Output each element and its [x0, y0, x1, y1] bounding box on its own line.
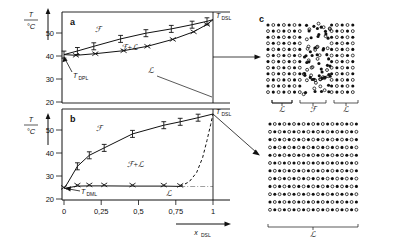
lattice-dot	[288, 54, 291, 57]
lattice-dot	[341, 54, 344, 57]
lattice-dot	[278, 208, 281, 211]
lattice-dot	[321, 208, 324, 211]
t-dpl-sub: DPL	[79, 75, 89, 81]
lattice-dot	[273, 146, 276, 149]
lattice-dot	[312, 130, 315, 133]
lattice-dot	[316, 185, 319, 188]
lattice-dot	[336, 169, 339, 172]
lattice-dot	[288, 185, 291, 188]
lattice-dot	[335, 48, 338, 51]
lattice-dot	[267, 42, 270, 45]
lattice-dot	[326, 185, 329, 188]
x-axis: 0 0,25 0,5 0,75 1 x DSL	[62, 200, 231, 238]
lattice-dot	[331, 154, 334, 157]
lattice-dot	[288, 193, 291, 196]
lattice-dot	[341, 48, 344, 51]
lattice-dot	[351, 23, 354, 26]
lattice-dot	[317, 162, 320, 165]
lattice-dot	[293, 185, 296, 188]
lattice-dot	[351, 84, 354, 87]
lattice-dot	[340, 130, 343, 133]
lattice-dot	[278, 146, 281, 149]
lattice-dot	[277, 60, 280, 63]
lattice-dot	[335, 36, 338, 39]
lattice-dot	[269, 177, 272, 180]
lattice-dot	[321, 193, 324, 196]
lattice-dot	[297, 162, 300, 165]
y-tick-b-3: 20	[46, 195, 54, 204]
lattice-dot	[312, 138, 315, 141]
lattice-dot	[277, 48, 280, 51]
lattice-dot	[269, 130, 272, 133]
y-tick-a-3: 20	[46, 98, 54, 107]
lattice-dot	[269, 162, 272, 165]
lattice-dot	[282, 24, 285, 27]
lattice-dot	[273, 185, 276, 188]
phase-label-a-two-phase: ℱ+ℒ	[121, 43, 138, 52]
lattice-dot	[293, 78, 296, 81]
lattice-dot	[313, 87, 316, 90]
lattice-dot	[326, 177, 329, 180]
lattice-dot	[320, 68, 323, 71]
lattice-dot	[288, 48, 291, 51]
lattice-dot	[341, 30, 344, 33]
lattice-dot	[278, 200, 281, 203]
lattice-dot	[341, 154, 344, 157]
lattice-dot	[288, 36, 291, 39]
lattice-dot	[298, 30, 301, 33]
lattice-dot	[302, 193, 305, 196]
lattice-dot	[351, 54, 354, 57]
markers-a-solidus	[73, 22, 210, 57]
lattice-dot	[331, 201, 334, 204]
lattice-dot	[297, 122, 300, 125]
lattice-dot	[272, 85, 275, 88]
x-axis-label: x	[193, 229, 198, 236]
phase-label-a-fluid: ℱ	[95, 25, 103, 34]
lattice-dot	[293, 85, 296, 88]
lattice-dot	[297, 208, 300, 211]
lattice-dot	[282, 72, 285, 75]
lattice-dot	[350, 185, 353, 188]
lattice-dot	[282, 91, 285, 94]
lattice-dot	[306, 68, 309, 71]
lattice-dot	[297, 177, 300, 180]
lattice-dot	[321, 130, 324, 133]
lattice-dot	[297, 146, 300, 149]
lattice-dot	[345, 185, 348, 188]
lattice-dot	[297, 154, 300, 157]
lattice-dot	[326, 122, 329, 125]
lattice-dot	[283, 161, 286, 164]
lattice-dot	[273, 201, 276, 204]
y-tick-b-0: 50	[46, 126, 54, 135]
lattice-dot	[330, 84, 333, 87]
lattice-dot	[266, 23, 269, 26]
y-tick-a-1: 40	[46, 52, 54, 61]
lattice-dot	[321, 146, 324, 149]
lattice-dot	[350, 177, 353, 180]
lattice-dot	[278, 193, 281, 196]
lattice-dot	[312, 177, 315, 180]
lattice-dot	[346, 60, 349, 63]
lattice-dot	[302, 169, 305, 172]
lattice-dot	[293, 54, 296, 57]
lattice-dot	[273, 123, 276, 126]
lattice-dot	[283, 193, 286, 196]
lattice-dot	[278, 154, 281, 157]
lattice-dot	[341, 138, 344, 141]
y-tick-b-1: 40	[46, 149, 54, 158]
lattice-dot	[297, 193, 300, 196]
lattice-dot	[312, 161, 315, 164]
lattice-dot	[355, 130, 358, 133]
lattice-dot	[341, 36, 344, 39]
lattice-dot	[293, 48, 296, 51]
lattice-dot	[266, 72, 269, 75]
lattice-dot	[273, 161, 276, 164]
lattice-dot	[288, 162, 291, 165]
lattice-dot	[303, 56, 306, 59]
lattice-dot	[327, 73, 330, 76]
lattice-dot	[345, 177, 348, 180]
phase-label-b-fluid: ℱ	[96, 124, 104, 133]
lattice-dot	[282, 54, 285, 57]
lattice-dot	[341, 185, 344, 188]
lattice-dot	[322, 47, 325, 50]
